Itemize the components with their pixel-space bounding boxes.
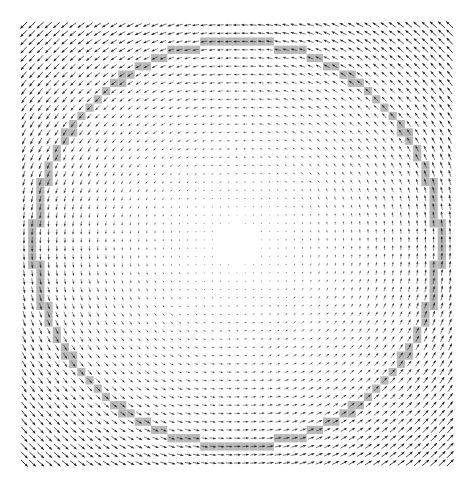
- arrow-head-icon: [408, 195, 410, 198]
- arrow-head-icon: [184, 57, 187, 59]
- arrow-head-icon: [131, 429, 135, 432]
- arrow-head-icon: [64, 199, 66, 202]
- arrow-head-icon: [254, 379, 257, 381]
- arrow-head-icon: [146, 223, 147, 225]
- arrow-head-icon: [152, 115, 155, 117]
- arrow-head-icon: [242, 74, 245, 76]
- quiver-plot: [0, 0, 475, 487]
- arrow-head-icon: [64, 182, 66, 185]
- arrow-head-icon: [326, 246, 327, 248]
- arrow-head-icon: [139, 429, 142, 432]
- arrow-head-icon: [253, 289, 255, 290]
- arrow-head-icon: [225, 32, 228, 34]
- arrow-head-icon: [89, 215, 91, 218]
- arrow-head-icon: [228, 206, 229, 207]
- arrow-head-icon: [79, 149, 81, 152]
- arrow-head-icon: [254, 421, 257, 423]
- arrow-head-icon: [344, 436, 348, 439]
- arrow-head-icon: [316, 114, 319, 116]
- arrow-head-icon: [213, 363, 215, 365]
- arrow-head-icon: [229, 347, 231, 348]
- arrow-head-icon: [408, 236, 410, 239]
- arrow-head-icon: [367, 204, 369, 207]
- arrow-head-icon: [244, 181, 246, 182]
- arrow-head-icon: [326, 205, 327, 207]
- arrow-head-icon: [233, 49, 236, 51]
- arrow-head-icon: [192, 32, 196, 34]
- arrow-head-icon: [400, 212, 402, 215]
- arrow-head-icon: [359, 204, 361, 207]
- arrow-head-icon: [372, 22, 376, 25]
- arrow-head-icon: [235, 140, 237, 141]
- arrow-head-icon: [229, 297, 231, 298]
- arrow-head-icon: [278, 322, 280, 324]
- arrow-head-icon: [73, 331, 75, 334]
- arrow-head-icon: [270, 421, 273, 423]
- arrow-head-icon: [308, 98, 311, 100]
- arrow-head-icon: [432, 162, 434, 166]
- arrow-head-icon: [212, 256, 213, 257]
- arrow-head-icon: [56, 298, 58, 301]
- arrow-head-icon: [245, 289, 247, 290]
- arrow-head-icon: [400, 228, 402, 231]
- arrow-head-icon: [399, 162, 401, 165]
- arrow-head-icon: [440, 170, 442, 174]
- arrow-head-icon: [245, 363, 247, 365]
- arrow-head-icon: [135, 49, 139, 52]
- arrow-head-icon: [113, 240, 115, 242]
- arrow-head-icon: [352, 452, 356, 455]
- arrow-head-icon: [236, 206, 237, 207]
- arrow-head-icon: [185, 107, 188, 109]
- arrow-head-icon: [294, 272, 295, 274]
- arrow-head-icon: [160, 66, 163, 68]
- arrow-head-icon: [286, 346, 288, 348]
- arrow-head-icon: [318, 263, 319, 265]
- arrow-head-icon: [416, 294, 418, 297]
- arrow-head-icon: [32, 348, 35, 352]
- arrow-head-icon: [147, 446, 151, 448]
- arrow-head-icon: [318, 221, 319, 223]
- arrow-head-icon: [187, 231, 188, 233]
- arrow-head-icon: [168, 99, 171, 101]
- arrow-head-icon: [249, 24, 253, 26]
- arrow-head-icon: [416, 195, 418, 198]
- arrow-head-icon: [97, 199, 99, 202]
- arrow-head-icon: [408, 261, 410, 264]
- arrow-head-icon: [295, 453, 299, 455]
- arrow-head-icon: [227, 181, 229, 182]
- arrow-head-icon: [39, 158, 41, 162]
- arrow-head-icon: [55, 166, 57, 169]
- arrow-head-icon: [48, 356, 51, 360]
- arrow-head-icon: [212, 239, 213, 240]
- arrow-head-icon: [172, 396, 175, 398]
- arrow-head-icon: [318, 279, 319, 281]
- arrow-head-icon: [123, 454, 127, 457]
- arrow-head-icon: [440, 153, 442, 157]
- arrow-head-icon: [316, 73, 319, 75]
- arrow-head-icon: [71, 149, 73, 152]
- arrow-head-icon: [130, 298, 132, 300]
- arrow-head-icon: [311, 371, 314, 373]
- arrow-head-icon: [448, 120, 451, 124]
- arrow-head-icon: [113, 298, 115, 301]
- arrow-head-icon: [196, 404, 199, 406]
- arrow-head-icon: [307, 48, 310, 50]
- arrow-head-icon: [356, 31, 360, 34]
- arrow-head-icon: [193, 107, 196, 109]
- arrow-head-icon: [384, 253, 386, 256]
- arrow-head-icon: [196, 240, 197, 241]
- arrow-head-icon: [258, 90, 261, 92]
- arrow-head-icon: [122, 240, 124, 242]
- arrow-head-icon: [146, 232, 147, 234]
- arrow-head-icon: [155, 380, 158, 382]
- arrow-head-icon: [221, 404, 224, 406]
- arrow-head-icon: [441, 368, 444, 372]
- arrow-head-icon: [384, 245, 386, 248]
- arrow-head-icon: [241, 49, 244, 51]
- arrow-head-icon: [228, 281, 229, 282]
- arrow-head-icon: [23, 224, 25, 227]
- arrow-head-icon: [107, 463, 111, 466]
- arrow-head-icon: [237, 396, 240, 398]
- arrow-head-icon: [324, 89, 327, 91]
- arrow-head-icon: [211, 181, 213, 182]
